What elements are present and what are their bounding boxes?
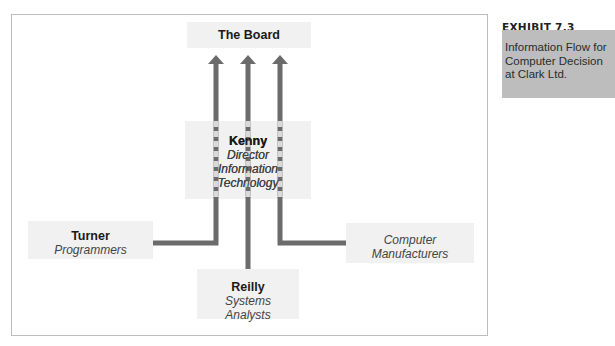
arrowhead-icon [272, 55, 288, 64]
node-kenny-label: Kenny Director Information Technology [185, 121, 311, 199]
arrowhead-icon [208, 55, 224, 64]
node-name: Kenny [185, 134, 311, 148]
node-role-line: Technology [185, 176, 311, 190]
exhibit-title: Information Flow for Computer Decision a… [505, 33, 615, 82]
arrowhead-icon [240, 55, 256, 64]
exhibit-caption-box: Information Flow for Computer Decision a… [502, 30, 615, 98]
node-role-line: Director [185, 148, 311, 162]
node-role-line: Information [185, 162, 311, 176]
